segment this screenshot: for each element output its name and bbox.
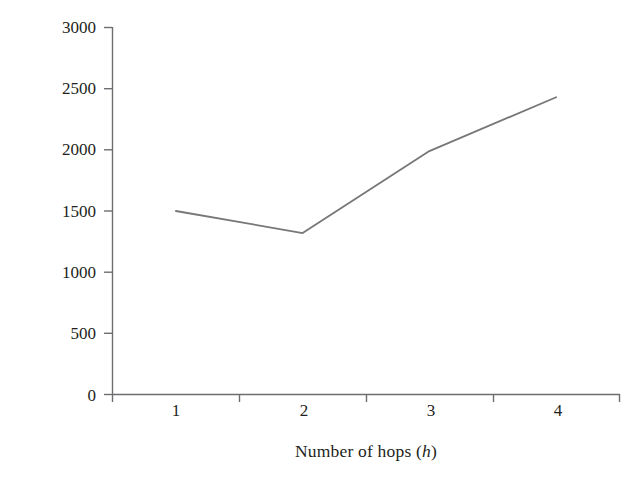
y-axis-ticks <box>104 28 112 395</box>
x-axis-ticks <box>113 394 620 402</box>
chart-figure: Total messages (Ms) 3000 2500 2000 1500 … <box>0 0 637 485</box>
plot-area <box>0 0 637 485</box>
data-series-line <box>176 97 556 233</box>
